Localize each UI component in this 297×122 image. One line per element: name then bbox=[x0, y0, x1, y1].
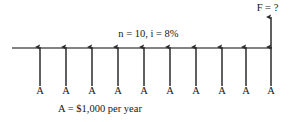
future-value-label: F = ? bbox=[238, 3, 297, 14]
annuity-label: A bbox=[215, 86, 229, 97]
annuity-caption: A = $1,000 per year bbox=[0, 104, 200, 115]
annuity-label: A bbox=[85, 86, 99, 97]
parameters-label: n = 10, i = 8% bbox=[0, 29, 297, 40]
cash-flow-arrow-group bbox=[40, 47, 271, 86]
annuity-label: A bbox=[189, 86, 203, 97]
annuity-label: A bbox=[163, 86, 177, 97]
annuity-label: A bbox=[33, 86, 47, 97]
annuity-label: A bbox=[59, 86, 73, 97]
annuity-label: A bbox=[137, 86, 151, 97]
cash-flow-diagram-figure: n = 10, i = 8% F = ? A = $1,000 per year… bbox=[0, 0, 297, 122]
annuity-label: A bbox=[239, 86, 253, 97]
annuity-label: A bbox=[264, 86, 278, 97]
annuity-label: A bbox=[111, 86, 125, 97]
